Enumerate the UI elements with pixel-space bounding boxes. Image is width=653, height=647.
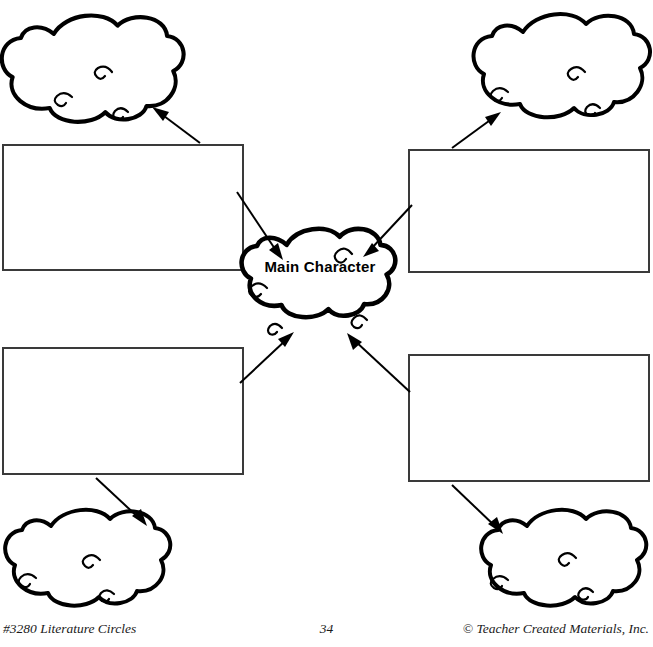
cloud-top-right[interactable] bbox=[474, 14, 651, 117]
answer-box-bottom-right[interactable] bbox=[409, 355, 649, 481]
cloud-top-left[interactable] bbox=[2, 15, 184, 121]
arrow-box-to-cloud-top-right bbox=[452, 112, 501, 148]
arrow-box-to-center-bottom-right bbox=[347, 333, 410, 392]
answer-box-top-left[interactable] bbox=[3, 145, 243, 270]
page-footer: #3280 Literature Circles 34 © Teacher Cr… bbox=[0, 621, 653, 641]
center-node-label: Main Character bbox=[264, 258, 375, 275]
worksheet-page: Main Character bbox=[0, 0, 653, 647]
arrow-box-to-center-bottom-left bbox=[240, 332, 294, 383]
character-map-diagram: Main Character bbox=[0, 0, 653, 647]
arrow-box-to-cloud-top-left bbox=[152, 107, 200, 143]
arrow-box-to-cloud-bottom-right bbox=[452, 485, 503, 534]
cloud-bottom-right[interactable] bbox=[481, 510, 646, 606]
answer-box-bottom-left[interactable] bbox=[3, 348, 243, 474]
footer-copyright: © Teacher Created Materials, Inc. bbox=[463, 621, 649, 637]
answer-box-top-right[interactable] bbox=[409, 150, 649, 272]
